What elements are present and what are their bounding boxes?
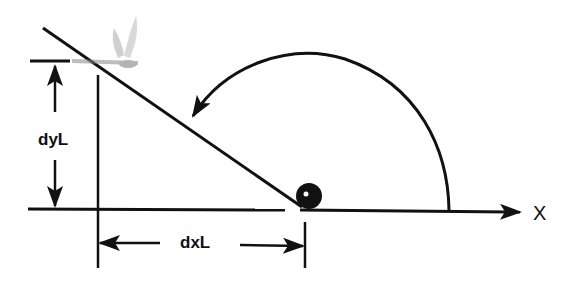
angle-arc-arrow xyxy=(193,53,449,210)
inclined-line xyxy=(43,28,302,207)
baseline xyxy=(28,209,285,210)
x-axis xyxy=(300,210,520,212)
x-axis-label: X xyxy=(533,202,546,225)
dxl-arrow-right xyxy=(240,245,303,246)
dragonfly-icon xyxy=(72,16,138,68)
ball-icon xyxy=(296,183,322,209)
diagram-canvas xyxy=(0,0,570,288)
dxl-label: dxL xyxy=(180,233,210,253)
dyl-label: dyL xyxy=(38,130,68,150)
